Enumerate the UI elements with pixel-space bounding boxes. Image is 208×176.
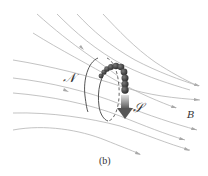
sphere	[121, 86, 128, 93]
north-pole-label: 𝒩	[63, 70, 80, 85]
field-lines	[13, 14, 200, 155]
figure-caption: (b)	[99, 155, 111, 167]
field-line-8	[13, 93, 185, 140]
field-line-3	[77, 14, 199, 86]
sphere-chain	[99, 63, 129, 94]
sphere	[99, 74, 104, 79]
arrowhead-icon	[179, 137, 185, 140]
arrowhead-icon	[184, 147, 190, 151]
arrowhead-icon	[135, 151, 141, 155]
arrowhead-icon	[191, 127, 197, 130]
field-line-9	[13, 113, 190, 150]
field-line-6	[13, 60, 200, 100]
arrowhead-icon	[194, 98, 200, 101]
arrowhead-icon	[171, 105, 177, 108]
arrowhead-icon	[63, 88, 69, 92]
sphere	[121, 69, 128, 76]
field-label: B	[186, 109, 194, 120]
south-pole-label: 𝒮	[133, 100, 147, 115]
field-line-10	[13, 128, 140, 154]
magnetic-loop-diagram: 𝒩 𝒮 B (b)	[0, 0, 208, 176]
arrowhead-icon	[79, 45, 84, 50]
